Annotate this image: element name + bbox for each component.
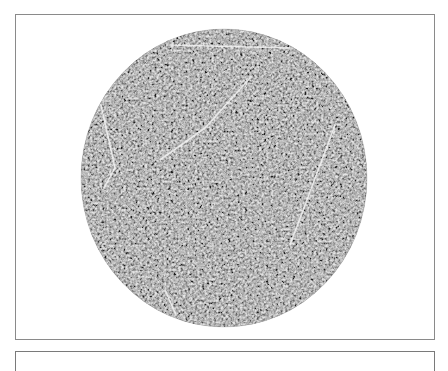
figure-panel-bottom [15, 351, 435, 371]
